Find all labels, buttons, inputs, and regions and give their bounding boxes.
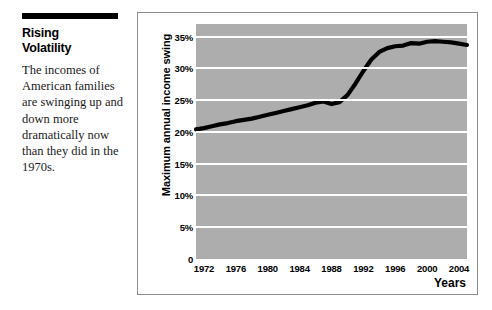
gridline bbox=[196, 67, 467, 69]
headline-line-2: Volatility bbox=[22, 41, 126, 56]
gridline bbox=[196, 99, 467, 101]
x-tick-label: 2004 bbox=[437, 263, 481, 274]
page-title: Rising Volatility bbox=[22, 26, 126, 56]
plot-area bbox=[196, 24, 467, 259]
chart-container: Maximum annual income swing 05%10%15%20%… bbox=[137, 12, 478, 295]
y-tick-label: 35% bbox=[141, 31, 193, 42]
series-polyline bbox=[196, 41, 467, 129]
x-axis-title: Years bbox=[434, 276, 466, 290]
y-axis-tick-labels: 05%10%15%20%25%30%35% bbox=[138, 24, 193, 259]
article-body-text: The incomes of American families are swi… bbox=[22, 62, 126, 175]
headline-line-1: Rising bbox=[22, 26, 126, 41]
y-tick-label: 5% bbox=[141, 222, 193, 233]
article-blurb: Rising Volatility The incomes of America… bbox=[22, 13, 126, 175]
headline-rule bbox=[22, 13, 118, 19]
gridline bbox=[196, 194, 467, 196]
y-tick-label: 25% bbox=[141, 95, 193, 106]
y-tick-label: 15% bbox=[141, 158, 193, 169]
gridline bbox=[196, 226, 467, 228]
y-tick-label: 20% bbox=[141, 126, 193, 137]
x-axis-tick-labels: 197219761980198419881992199620002004 bbox=[196, 263, 467, 277]
y-tick-label: 10% bbox=[141, 190, 193, 201]
y-tick-label: 30% bbox=[141, 63, 193, 74]
income-swing-line bbox=[196, 24, 467, 259]
gridline bbox=[196, 131, 467, 133]
gridline bbox=[196, 163, 467, 165]
gridline bbox=[196, 36, 467, 38]
